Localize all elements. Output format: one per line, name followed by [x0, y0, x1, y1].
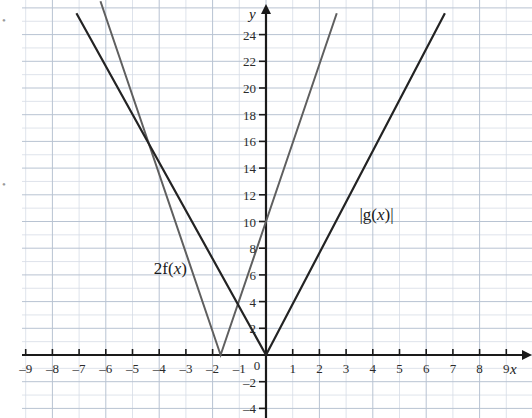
- x-tick-label: 0: [254, 359, 261, 372]
- y-tick-label: 2: [232, 322, 256, 335]
- x-tick-label: 4: [370, 362, 377, 375]
- x-tick-label: –6: [99, 362, 112, 375]
- x-tick-label: 8: [476, 362, 483, 375]
- y-tick-label: 8: [232, 242, 256, 255]
- y-tick-label: 12: [232, 188, 256, 201]
- x-tick-label: 5: [396, 362, 403, 375]
- series-line-1: [76, 13, 444, 355]
- y-tick-label: 20: [232, 82, 256, 95]
- x-tick-label: –9: [19, 362, 32, 375]
- chart-page: –9–8–7–6–5–4–3–2–10123456789–4–224681012…: [0, 0, 532, 418]
- x-axis-label: x: [510, 361, 517, 378]
- axes: [22, 4, 532, 418]
- y-tick-label: 4: [232, 295, 256, 308]
- y-tick-label: 18: [232, 108, 256, 121]
- y-tick-label: 14: [232, 162, 256, 175]
- y-tick-label: 24: [232, 28, 256, 41]
- series-label-gx: |g(x)|: [359, 205, 393, 225]
- y-tick-label: –4: [232, 402, 256, 415]
- y-tick-label: 16: [232, 135, 256, 148]
- y-tick-label: 10: [232, 215, 256, 228]
- graph-canvas: [0, 0, 532, 418]
- y-tick-label: 22: [232, 55, 256, 68]
- page-edge-mark-bottom: •: [2, 178, 6, 190]
- y-tick-label: 6: [232, 268, 256, 281]
- x-tick-label: 3: [343, 362, 350, 375]
- y-tick-label: –2: [232, 375, 256, 388]
- x-tick-label: –7: [73, 362, 86, 375]
- x-tick-label: –4: [153, 362, 166, 375]
- x-tick-label: –8: [46, 362, 59, 375]
- x-tick-label: 9: [503, 362, 510, 375]
- x-tick-label: 2: [316, 362, 323, 375]
- x-tick-label: –1: [233, 362, 246, 375]
- x-tick-label: 7: [450, 362, 457, 375]
- x-tick-label: –2: [206, 362, 219, 375]
- y-axis-label: y: [249, 6, 256, 23]
- x-tick-label: 6: [423, 362, 430, 375]
- page-edge-mark-top: •: [2, 14, 6, 26]
- x-tick-label: –3: [179, 362, 192, 375]
- x-tick-label: –5: [126, 362, 139, 375]
- x-tick-label: 1: [289, 362, 296, 375]
- series-label-2fx: 2f(x): [154, 259, 187, 279]
